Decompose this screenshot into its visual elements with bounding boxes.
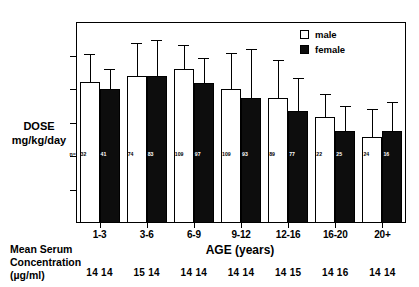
error-bar-female-3-6 (157, 40, 158, 76)
error-bar-female-1-3 (110, 69, 111, 89)
bar-female-16-20 (335, 131, 355, 223)
n-value-male-1-3: 32 (81, 152, 87, 157)
bar-group: 3241n= (80, 0, 120, 223)
n-value-male-6-9: 109 (175, 152, 184, 157)
x-tick-mark (194, 223, 195, 228)
x-tick-mark (147, 223, 148, 228)
x-tick-label-20+: 20+ (352, 229, 412, 240)
n-value-male-3-6: 74 (128, 152, 134, 157)
bar-group: 7483 (127, 0, 167, 223)
bar-female-3-6 (147, 76, 167, 223)
error-cap-male-1-3 (84, 54, 95, 55)
bar-female-12-16 (288, 111, 308, 223)
legend: malefemale (300, 29, 345, 59)
n-value-male-12-16: 89 (269, 152, 275, 157)
bar-male-12-16 (268, 98, 288, 223)
legend-label-male: male (315, 29, 337, 40)
n-value-female-6-9: 97 (195, 152, 201, 157)
error-bar-female-12-16 (298, 78, 299, 112)
x-tick-mark (288, 223, 289, 228)
bar-female-20+ (382, 131, 402, 223)
error-cap-female-12-16 (293, 78, 304, 79)
error-cap-male-16-20 (320, 94, 331, 95)
n-value-female-3-6: 83 (148, 152, 154, 157)
error-bar-male-3-6 (137, 43, 138, 75)
error-cap-female-1-3 (104, 69, 115, 70)
error-cap-female-9-12 (246, 49, 257, 50)
error-bar-male-16-20 (325, 94, 326, 117)
legend-swatch-male (300, 30, 309, 39)
n-value-female-1-3: 41 (101, 152, 107, 157)
error-cap-female-6-9 (198, 58, 209, 59)
error-bar-male-9-12 (231, 53, 232, 89)
x-tick-mark (100, 223, 101, 228)
y-tick-mark (70, 190, 76, 191)
legend-label-female: female (315, 44, 345, 55)
legend-item-female: female (300, 44, 345, 55)
error-bar-male-6-9 (184, 45, 185, 68)
n-value-female-20+: 16 (383, 152, 389, 157)
bar-male-16-20 (315, 117, 335, 223)
error-bar-female-6-9 (204, 58, 205, 83)
dose-by-age-bar-chart: 0510152025303241n=1-314 1474833-615 1410… (0, 0, 419, 287)
error-cap-male-20+ (367, 109, 378, 110)
error-cap-male-6-9 (178, 45, 189, 46)
error-bar-female-16-20 (345, 106, 346, 131)
x-tick-mark (382, 223, 383, 228)
error-cap-female-16-20 (340, 106, 351, 107)
error-bar-male-20+ (372, 109, 373, 137)
error-cap-male-12-16 (273, 60, 284, 61)
error-cap-male-3-6 (131, 43, 142, 44)
serum-concentration-label: Mean Serum Concentration (µg/ml) (10, 243, 81, 281)
n-value-female-16-20: 25 (336, 152, 342, 157)
y-tick-mark (70, 56, 76, 57)
n-value-male-9-12: 109 (222, 152, 231, 157)
n-value-female-12-16: 77 (289, 152, 295, 157)
error-cap-female-20+ (387, 102, 398, 103)
error-cap-male-9-12 (226, 53, 237, 54)
bar-male-3-6 (127, 76, 147, 223)
legend-item-male: male (300, 29, 345, 40)
legend-swatch-female (300, 45, 309, 54)
bar-group: 10997 (174, 0, 214, 223)
error-bar-female-20+ (392, 102, 393, 131)
x-tick-mark (241, 223, 242, 228)
n-value-female-9-12: 93 (242, 152, 248, 157)
y-tick-mark (70, 89, 76, 90)
serum-value-20+: 14 14 (352, 267, 412, 278)
x-axis-title: AGE (years) (150, 243, 330, 257)
error-cap-female-3-6 (151, 40, 162, 41)
bar-male-6-9 (174, 69, 194, 223)
bar-female-9-12 (241, 98, 261, 223)
error-bar-male-12-16 (278, 60, 279, 98)
y-axis-title: DOSE mg/kg/day (6, 120, 72, 148)
n-value-male-20+: 24 (363, 152, 369, 157)
x-tick-mark (335, 223, 336, 228)
bar-group: 10993 (221, 0, 261, 223)
error-bar-female-9-12 (251, 49, 252, 97)
n-prefix-label: n= (70, 152, 76, 157)
n-value-male-16-20: 22 (316, 152, 322, 157)
error-bar-male-1-3 (90, 54, 91, 82)
bar-group: 2416 (362, 0, 402, 223)
